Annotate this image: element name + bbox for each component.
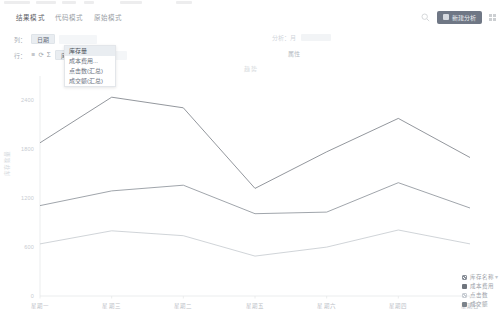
shelf-columns-pill[interactable]: 日期 bbox=[31, 34, 55, 44]
shelf-columns-dropzone[interactable] bbox=[59, 35, 97, 44]
series-line-1 bbox=[40, 183, 470, 214]
field-dropdown-menu[interactable]: 库存量 成本费用... 点击数(汇总) 成交额(汇总) bbox=[64, 45, 116, 87]
x-tick-label: 星期六 bbox=[317, 302, 336, 310]
ghost-columns-bar bbox=[301, 34, 331, 41]
dropdown-item-0[interactable]: 库存量 bbox=[65, 46, 115, 56]
chart-legend: ▾ 库存名称 成本费用 点击数 成交额 bbox=[462, 273, 494, 308]
series-layer bbox=[40, 97, 470, 256]
legend-item-3[interactable]: 成交额 bbox=[462, 300, 494, 308]
toolbar-right: 新建分析 bbox=[421, 9, 496, 25]
search-icon[interactable] bbox=[421, 13, 430, 22]
ghost-columns-label: 分析：月 bbox=[272, 33, 296, 42]
y-tick-label: 2400 bbox=[6, 97, 34, 103]
legend-more-icon[interactable]: ▾ bbox=[495, 273, 498, 280]
chart-icon bbox=[443, 14, 449, 20]
legend-item-1[interactable]: 成本费用 bbox=[462, 282, 494, 290]
app-root: 结果模式 代码模式 原始模式 新建分析 列： 日期 分析：月 行： ≡ bbox=[0, 0, 502, 331]
legend-label-0: 库存名称 bbox=[470, 273, 494, 281]
x-tick-label: 星期一 bbox=[31, 302, 50, 310]
x-tick-label: 星期二 bbox=[174, 302, 193, 310]
y-tick-label: 0 bbox=[6, 293, 34, 299]
shelf-columns: 列： 日期 bbox=[14, 33, 97, 45]
y-tick-label: 600 bbox=[6, 244, 34, 250]
dropdown-item-3[interactable]: 成交额(汇总) bbox=[65, 76, 115, 86]
dropdown-item-2[interactable]: 点击数(汇总) bbox=[65, 66, 115, 76]
shelf-rows-right-ghost: 属性 bbox=[288, 49, 300, 58]
dropdown-item-1[interactable]: 成本费用... bbox=[65, 56, 115, 66]
shelf-columns-label: 列： bbox=[14, 35, 27, 44]
legend-label-3: 成交额 bbox=[470, 300, 488, 308]
x-tick-label: 星期四 bbox=[389, 302, 408, 310]
series-line-0 bbox=[40, 97, 470, 188]
new-analysis-label: 新建分析 bbox=[452, 13, 476, 22]
legend-label-2: 点击数 bbox=[470, 291, 488, 299]
legend-label-1: 成本费用 bbox=[470, 282, 494, 290]
x-tick-label: 星期五 bbox=[246, 302, 265, 310]
shelf-columns-right-ghost: 分析：月 bbox=[272, 33, 331, 42]
y-tick-label: 1800 bbox=[6, 146, 34, 152]
legend-swatch-2 bbox=[462, 293, 467, 298]
legend-swatch-0 bbox=[462, 275, 467, 280]
ghost-rows-label: 属性 bbox=[288, 49, 300, 58]
new-analysis-button[interactable]: 新建分析 bbox=[437, 11, 482, 24]
legend-item-0[interactable]: 库存名称 bbox=[462, 273, 494, 281]
window-chrome-ghost bbox=[0, 0, 502, 6]
tab-result-mode[interactable]: 结果模式 bbox=[16, 13, 45, 23]
line-chart-plot[interactable] bbox=[0, 58, 502, 320]
tab-code-mode[interactable]: 代码模式 bbox=[55, 13, 84, 23]
grid-menu-icon[interactable] bbox=[489, 14, 496, 21]
legend-item-2[interactable]: 点击数 bbox=[462, 291, 494, 299]
chart-container: 趋势 库存数量 0600120018002400 星期一星期三星期二星期五星期六… bbox=[0, 58, 502, 320]
series-line-2 bbox=[40, 230, 470, 256]
x-tick-label: 星期三 bbox=[102, 302, 121, 310]
legend-swatch-3 bbox=[462, 302, 467, 307]
y-tick-label: 1200 bbox=[6, 195, 34, 201]
tab-raw-mode[interactable]: 原始模式 bbox=[94, 13, 123, 23]
legend-swatch-1 bbox=[462, 284, 467, 289]
